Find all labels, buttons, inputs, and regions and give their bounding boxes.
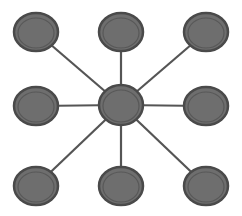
node-bottom-left — [14, 167, 58, 205]
nodes-layer — [14, 13, 228, 205]
diagram-canvas — [0, 0, 242, 216]
node-top-right — [184, 13, 228, 51]
node-bottom-center — [99, 167, 143, 205]
node-middle-left — [14, 87, 58, 125]
node-top-left — [14, 13, 58, 51]
node-middle-right — [184, 87, 228, 125]
node-top-center — [99, 13, 143, 51]
hub-spoke-diagram — [0, 0, 242, 216]
hub-node — [99, 85, 143, 125]
node-bottom-right — [184, 167, 228, 205]
